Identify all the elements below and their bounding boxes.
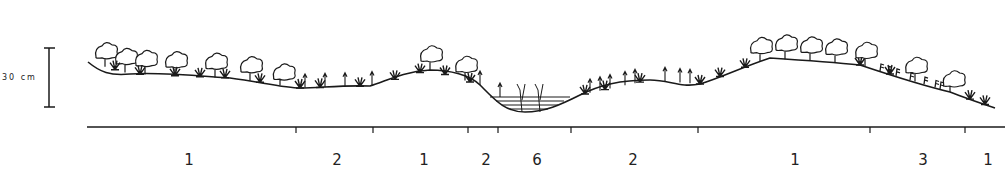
grass-tuft-icon (220, 69, 230, 78)
grass-tuft-icon (355, 77, 365, 86)
water-body (490, 84, 570, 112)
zone-label: 2 (481, 151, 491, 169)
herb-arrow-icon (370, 71, 374, 85)
zone-label: 1 (790, 151, 800, 169)
grass-tuft-icon (440, 66, 450, 75)
herb-arrow-icon (343, 73, 347, 87)
herb-arrow-icon (678, 68, 682, 82)
herb-arrow-icon (663, 67, 667, 81)
zone-labels: 121262131 (184, 151, 993, 169)
herb-arrow-icon (303, 74, 307, 88)
fern-icon (910, 73, 914, 80)
fern-icon (924, 77, 928, 84)
herb-arrow-icon (688, 69, 692, 83)
fern-icon (896, 69, 900, 76)
shrub-icon (943, 71, 965, 92)
shrub-icon (906, 57, 928, 81)
zone-label: 6 (532, 151, 542, 169)
herb-arrow-icon (323, 73, 327, 87)
zone-label: 1 (419, 151, 429, 169)
grass-tuft-icon (295, 79, 305, 88)
shrub-icon (826, 39, 848, 63)
shrub-icon (801, 37, 823, 61)
grass-tuft-icon (255, 73, 265, 82)
grass-tuft-icon (580, 85, 590, 94)
profile-svg: 30 cm 121262131 (0, 0, 1005, 178)
zone-label: 2 (332, 151, 342, 169)
herb-arrow-icon (608, 75, 612, 89)
fern-icon (935, 81, 939, 88)
vegetation-layer (96, 35, 990, 105)
shrub-icon (116, 48, 138, 72)
shrub-icon (273, 64, 295, 85)
zone-label: 2 (628, 151, 638, 169)
fern-icon (880, 64, 884, 71)
herb-arrow-icon (498, 83, 502, 97)
zone-ticks (296, 127, 965, 133)
zone-label: 3 (918, 151, 928, 169)
vegetation-profile-diagram: 30 cm 121262131 (0, 0, 1005, 178)
scale-bar (44, 48, 55, 107)
zone-label: 1 (184, 151, 194, 169)
herb-arrow-icon (623, 71, 627, 85)
grass-tuft-icon (315, 78, 325, 87)
shrub-icon (776, 35, 798, 59)
fern-icon (940, 82, 944, 89)
scale-label: 30 cm (2, 73, 37, 82)
zone-label: 1 (983, 151, 993, 169)
